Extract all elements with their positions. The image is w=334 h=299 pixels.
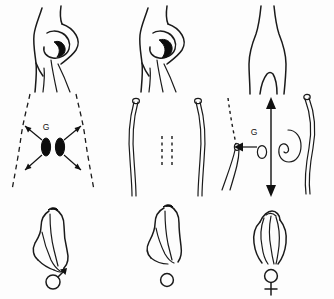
gonad-left-oval: [41, 138, 50, 156]
panel-top-left: [10, 2, 120, 96]
female-symbol-circle: [265, 270, 278, 283]
duct-right-terminal-circle: [304, 94, 310, 99]
torso-developed-left-icon: [10, 2, 120, 96]
genitalia-indifferent-icon: [116, 196, 228, 296]
figure-root: G: [0, 0, 334, 299]
duct-left-terminal-circle: [133, 98, 140, 103]
torso-flat-right-icon: [226, 2, 334, 96]
neuter-symbol-circle: [161, 274, 174, 287]
gonad-label-right: G: [251, 127, 258, 137]
panel-bottom-right: [224, 196, 334, 299]
gonad-migration-icon: G: [216, 90, 334, 200]
gonad-small-oval: [257, 146, 266, 159]
torso-developed-middle-icon: [118, 2, 228, 96]
genitalia-male-icon: [8, 198, 118, 298]
gonads-radiating-icon: G: [2, 92, 114, 196]
panel-middle-middle: [110, 92, 228, 200]
panel-bottom-middle: [116, 196, 228, 296]
panel-middle-left: G: [2, 92, 114, 196]
panel-top-right: [226, 2, 334, 96]
genitalia-female-icon: [224, 196, 334, 299]
gonad-right-oval: [55, 138, 64, 156]
duct-right-terminal-circle: [195, 98, 202, 103]
panel-bottom-left: [8, 198, 118, 298]
ducts-paired-icon: [110, 92, 228, 200]
vertical-arrow-head-up: [266, 97, 276, 109]
panel-middle-right: G: [216, 90, 334, 200]
gonad-label-left: G: [43, 122, 50, 132]
panel-top-middle: [118, 2, 228, 96]
